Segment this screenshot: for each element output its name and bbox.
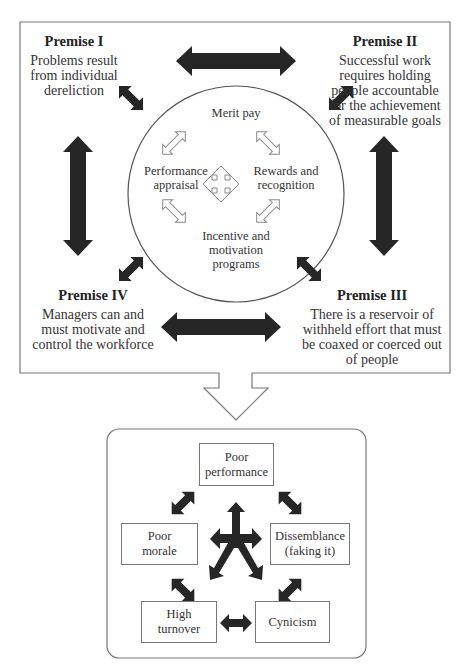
outcome-high-turnover: High turnover: [141, 601, 217, 643]
premise-1-line: from individual: [22, 68, 126, 83]
arrow-premise1-premise2: [176, 46, 296, 76]
circle-label-line: recognition: [246, 178, 326, 192]
outcome-line: Poor: [142, 529, 177, 544]
premise-1-heading: Premise I: [22, 33, 126, 50]
premise-4-heading: Premise IV: [30, 287, 156, 304]
circle-label-merit-pay: Merit pay: [186, 106, 286, 120]
circle-label-rewards-recognition: Rewards and recognition: [246, 164, 326, 192]
circle-label-line: Performance: [136, 164, 216, 178]
premise-2-line: requires holding: [322, 68, 448, 83]
arrow-premise3-circle: [291, 251, 328, 288]
outcome-line: turnover: [158, 622, 200, 637]
premise-4-line: Managers can and: [26, 307, 160, 322]
outcome-poor-morale: Poor morale: [121, 523, 198, 565]
circle-label-line: appraisal: [136, 178, 216, 192]
premise-3-line: withheld effort that must: [300, 322, 444, 337]
outcome-poor-performance: Poor performance: [199, 443, 274, 486]
premise-3-text: There is a reservoir of withheld effort …: [300, 307, 444, 367]
circle-label-line: motivation: [186, 243, 286, 257]
outcome-line: Poor: [205, 450, 268, 465]
outcome-dissemblance: Dissemblance (faking it): [270, 523, 350, 565]
premise-4-line: control the workforce: [26, 337, 160, 352]
outcome-line: morale: [142, 544, 177, 559]
premise-3-heading: Premise III: [304, 287, 440, 304]
premise-3-line: There is a reservoir of: [300, 307, 444, 322]
circle-label-line: programs: [186, 257, 286, 271]
arrow-premise4-circle: [113, 251, 150, 288]
premise-2-line: people accountable: [322, 83, 448, 98]
arrow-premise2-premise3: [369, 136, 399, 256]
premise-2-line: of measurable goals: [322, 113, 448, 128]
premise-3-line: be coaxed or coerced out: [300, 337, 444, 352]
premise-2-line: Successful work: [322, 53, 448, 68]
premise-1-line: dereliction: [22, 83, 126, 98]
outcome-line: Dissemblance: [275, 529, 345, 544]
arrow-premise1-premise4: [63, 136, 93, 256]
outcome-line: Cynicism: [269, 615, 317, 630]
outcome-line: High: [158, 607, 200, 622]
premise-4-line: must motivate and: [26, 322, 160, 337]
circle-label-line: Rewards and: [246, 164, 326, 178]
circle-label-incentive-programs: Incentive and motivation programs: [186, 229, 286, 271]
outcome-cynicism: Cynicism: [255, 601, 330, 643]
premise-1-line: Problems result: [22, 53, 126, 68]
circle-label-line: Incentive and: [186, 229, 286, 243]
central-star-arrow-icon: [209, 502, 263, 580]
premise-2-text: Successful work requires holding people …: [322, 53, 448, 128]
outcome-line: performance: [205, 465, 268, 480]
circle-label-performance-appraisal: Performance appraisal: [136, 164, 216, 192]
premise-1-text: Problems result from individual derelict…: [22, 53, 126, 98]
premise-3-line: of people: [300, 352, 444, 367]
arrow-premise4-premise3: [161, 312, 281, 342]
premise-4-text: Managers can and must motivate and contr…: [26, 307, 160, 352]
premise-2-line: for the achievement: [322, 98, 448, 113]
outcome-line: (faking it): [275, 544, 345, 559]
premise-2-heading: Premise II: [322, 33, 448, 50]
